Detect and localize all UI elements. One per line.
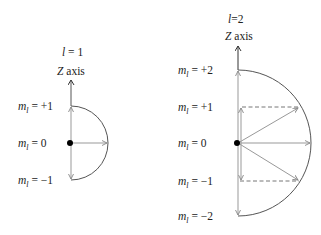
l1-origin-dot [67, 140, 73, 146]
l1-title: l = 1 [62, 46, 83, 58]
l1-label-m-plus1: ml = +1 [18, 100, 53, 115]
l1-label-m-minus1: ml = −1 [18, 174, 53, 189]
diagram-l2: l=2 Z axis ml = +2 ml = +1 ml = 0 [178, 13, 311, 225]
l2-vector-m-minus1 [238, 143, 298, 180]
l2-label-m-minus2: ml = −2 [178, 210, 213, 225]
diagram-l1: l = 1 Z axis ml = +1 ml = 0 ml = −1 [18, 46, 108, 189]
l1-axis-label: Z axis [57, 65, 85, 77]
l2-axis-label: Z axis [225, 30, 253, 42]
l2-vector-m-plus1 [238, 108, 298, 143]
l2-label-m-minus1: ml = −1 [178, 175, 213, 190]
l2-origin-dot [234, 140, 240, 146]
angular-momentum-diagram: l = 1 Z axis ml = +1 ml = 0 ml = −1 l=2 [0, 0, 321, 235]
l2-title: l=2 [228, 13, 244, 25]
l2-label-m-plus2: ml = +2 [178, 64, 213, 79]
l2-label-m-0: ml = 0 [178, 137, 207, 152]
l1-label-m-0: ml = 0 [18, 137, 47, 152]
l2-label-m-plus1: ml = +1 [178, 101, 213, 116]
